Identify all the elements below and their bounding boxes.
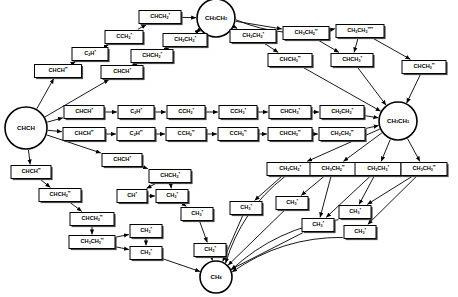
node-ch3ch2_ss_br[interactable]: CH3CH2**	[310, 163, 358, 178]
edge-chch2_s_low-to-ch_s	[147, 184, 156, 189]
node-ch3_s_b[interactable]: CH3*	[130, 225, 164, 240]
node-label: CH3CH3**	[413, 165, 437, 173]
node-ch3_s_br3[interactable]: CH3*	[302, 219, 336, 234]
node-ch3ch3_s_br[interactable]: CH3CH3*	[355, 163, 403, 178]
edge-ch3ch3_ss_l3-to-ch3_s_c	[116, 247, 129, 250]
node-ch3_s_br2[interactable]: CH3*	[276, 197, 310, 212]
node-ch3ch3_right[interactable]: CH3CH3	[379, 102, 417, 140]
node-chch_ss_a[interactable]: CHCH**	[35, 65, 84, 80]
edge-ch3ch3_ss_l3-to-ch3_s_b	[116, 235, 129, 238]
edge-ch3ch3_top-to-ch2ch2_s	[196, 30, 200, 33]
node-label: CCH2*	[178, 108, 194, 116]
node-chch_s_low[interactable]: CHCH**	[11, 166, 53, 181]
node-chch3_ss_r2[interactable]: CHCH3**	[268, 128, 314, 143]
edge-ch2ch3_s_r1-to-ch3ch3_right	[365, 116, 378, 118]
edge-cch2_s-to-chch2_s_top	[138, 25, 146, 30]
edge-ch3ch2_ss_br-to-ch3_s_br2	[301, 177, 323, 196]
node-label: CHCH	[17, 124, 35, 131]
node-ch3ch2_ss_tr[interactable]: CH3CH2**	[283, 27, 331, 42]
node-label: CH3CH2**	[322, 165, 346, 173]
node-ch_s[interactable]: CH*	[117, 190, 149, 205]
node-chch2_s_mid[interactable]: CHCH2*	[131, 50, 175, 65]
node-chch_s_r1[interactable]: CHCH*	[64, 106, 106, 121]
node-chch2_s_top[interactable]: CHCH2*	[139, 11, 183, 26]
edge-ch3ch3_top-to-ch2ch3_s_tr	[234, 27, 237, 29]
edge-chch3_s_tr-to-ch3ch3_right	[358, 68, 386, 105]
network-canvas: CHCHCH3CH3CH3CH3CH4CHCH**C2H*CCH2*CHCH2*…	[0, 0, 458, 297]
node-ch2ch3_s_tr[interactable]: CH3CH2*	[230, 30, 278, 45]
node-chch3_s_r1[interactable]: CHCH3*	[269, 106, 313, 121]
node-ch3ch3_top[interactable]: CH3CH3	[197, 0, 235, 37]
edge-ch3_s_br5-to-ch4	[232, 237, 343, 272]
edge-ch3ch3_ss_br-to-ch3_s_br5	[368, 177, 416, 225]
node-label: CHCH*	[113, 68, 131, 75]
edge-ch3ch3_right-to-ch3ch3_s_br	[381, 139, 390, 161]
node-ch4[interactable]: CH4	[200, 261, 232, 293]
node-cch2_s[interactable]: CCH2*	[105, 31, 145, 46]
node-label: CH3CH2**	[295, 29, 319, 37]
node-ch2_s_a[interactable]: CH2*	[156, 190, 190, 205]
node-label: CCH3*	[230, 108, 246, 116]
edge-ch3ch3_s_br-to-ch3_s_br4	[359, 177, 374, 205]
edge-ch3ch3_right-to-ch3ch3_ss_br	[408, 139, 420, 162]
edge-chch3_ss_far-to-ch3ch3_right	[407, 75, 421, 103]
edge-chch2_ss_l1-to-chch3_ss_l2	[70, 203, 81, 212]
edge-ch3ch2_ss_tr-to-chch3_s_tr	[319, 41, 339, 53]
node-ch3ch3_ss_br[interactable]: CH3CH3**	[401, 163, 449, 178]
edge-ch3_s_a-to-ch2_s_d	[200, 222, 207, 243]
edge-ch3ch3_ss_br-to-ch3_s_br4	[367, 177, 411, 205]
node-cch3_s_r1[interactable]: CCH3*	[219, 106, 259, 121]
edge-ch3ch2_ss_br-to-ch3_s_br3	[320, 177, 331, 218]
edge-ch2ch3_s_tr-to-chch3_ss_tr	[265, 44, 278, 53]
node-label: CCH2*	[116, 33, 132, 41]
node-ch3_s_br1[interactable]: CH3*	[230, 202, 264, 217]
node-chch2_s_low[interactable]: CHCH2*	[149, 170, 193, 185]
node-label: CH2CH3**	[331, 130, 355, 138]
node-c2h_s[interactable]: C2H*	[72, 48, 110, 63]
node-chch2_ss_l1[interactable]: CHCH2**	[39, 189, 83, 204]
node-ch3_s_br5[interactable]: CH3*	[344, 226, 378, 241]
node-ch3_s_c[interactable]: CH3*	[130, 247, 164, 262]
edge-chch-to-chch_s_low	[28, 150, 30, 164]
node-ch3_s_a[interactable]: CH3*	[181, 208, 215, 223]
edge-chch_s_low-to-chch2_ss_l1	[41, 180, 51, 188]
node-ch2ch3_s_r1[interactable]: CH2CH3*	[320, 106, 366, 121]
node-ch3ch3_ss_l3[interactable]: CH3CH3**	[69, 236, 117, 251]
node-chch_s_b[interactable]: CHCH*	[101, 66, 145, 81]
edge-chch_s_mid-to-chch2_s_low	[143, 167, 148, 169]
node-ch3ch2_s_br1[interactable]: CH3CH2*	[267, 163, 315, 178]
node-chch3_ss_l2[interactable]: CHCH3**	[70, 213, 116, 228]
node-chch3_ss_tr[interactable]: CHCH3**	[268, 54, 314, 69]
node-cch2_s_r1[interactable]: CCH2*	[167, 106, 207, 121]
edge-ch3_s_br3-to-ch4	[231, 233, 303, 270]
node-chch3_s_tr[interactable]: CHCH3*	[331, 54, 375, 69]
node-label: CH3CH3	[387, 117, 409, 125]
edge-ch3ch2_s_br1-to-ch4	[226, 177, 285, 263]
edge-ch3_s_c-to-ch4	[163, 259, 200, 272]
edge-chch3_ss_tr-to-ch3ch3_right	[304, 68, 381, 111]
node-ch2ch3_ss_r2[interactable]: CH2CH3**	[319, 128, 367, 143]
node-chch[interactable]: CHCH	[5, 107, 47, 149]
node-label: CH3CH3**	[81, 238, 105, 246]
node-c2h_s_r1[interactable]: C2H*	[118, 106, 156, 121]
node-chch3_ss_far[interactable]: CHCH3**	[402, 61, 448, 76]
node-ch2ch2_s[interactable]: CH2CH2*	[163, 34, 209, 49]
node-ch3_s_br4[interactable]: CH3*	[339, 206, 373, 221]
edge-ch3ch3_ssss-to-chch3_s_tr	[354, 39, 358, 53]
edge-chch-to-chch_ss_r2	[48, 130, 62, 131]
edge-chch-to-chch_s_r1	[47, 118, 63, 122]
node-cch2_ss_r2[interactable]: CCH2**	[166, 128, 208, 143]
edge-ch3ch3_ssss-to-chch3_ss_far	[374, 39, 411, 60]
node-label: CHCH*	[113, 156, 131, 163]
node-ch2_s_d[interactable]: CH2*	[194, 244, 228, 259]
node-c2h_ss_r2[interactable]: C2H**	[117, 128, 157, 143]
edge-chch-to-chch_ss_a	[37, 79, 54, 109]
node-label: CH3CH3	[205, 14, 227, 22]
node-chch_ss_r2[interactable]: CHCH**	[63, 128, 107, 143]
node-ch3ch3_ssss[interactable]: CH3CH3****	[336, 25, 386, 40]
node-label: CHCH*	[75, 108, 93, 115]
node-cch3_ss_r2[interactable]: CCH3**	[218, 128, 260, 143]
edge-ch2ch3_ss_r2-to-ch3ch3_right	[366, 126, 378, 129]
reaction-network-diagram: CHCHCH3CH3CH3CH3CH4CHCH**C2H*CCH2*CHCH2*…	[0, 0, 458, 297]
node-chch_s_mid[interactable]: CHCH*	[102, 154, 144, 169]
